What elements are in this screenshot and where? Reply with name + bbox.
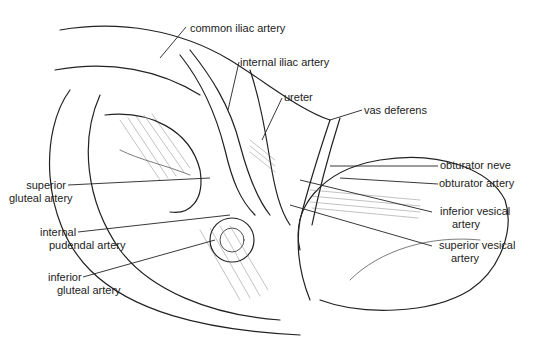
label-internal-pudendal-artery: internalpudendal artery	[40, 226, 125, 252]
label-superior-gluteal-artery: superiorgluteal artery	[0, 179, 66, 205]
common-iliac-vessel	[180, 55, 255, 215]
label-common-iliac-artery: common iliac artery	[190, 22, 285, 35]
label-obturator-artery: obturator artery	[439, 177, 514, 190]
label-superior-vesical-artery: superior vesicalartery	[439, 239, 515, 265]
label-obturator-nerve: obturator neve	[440, 159, 511, 172]
label-vas-deferens: vas deferens	[364, 104, 427, 117]
label-internal-iliac-artery: internal iliac artery	[240, 56, 329, 69]
label-inferior-vesical-artery: inferior vesicalartery	[440, 205, 510, 231]
label-inferior-gluteal-artery: inferiorgluteal artery	[48, 271, 121, 297]
pelvic-contour-top	[60, 26, 330, 120]
label-ureter: ureter	[284, 91, 313, 104]
vas-deferens-vessel	[298, 120, 330, 300]
